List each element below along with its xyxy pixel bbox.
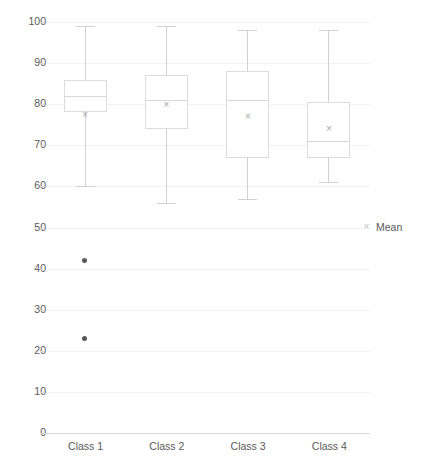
legend-label-mean: Mean — [376, 221, 402, 233]
box-plot-series[interactable]: × — [208, 0, 288, 471]
y-axis-tick-mark — [41, 104, 45, 105]
box-plot-series[interactable]: × — [127, 0, 207, 471]
lower-whisker — [166, 129, 167, 203]
legend: × Mean — [362, 221, 402, 233]
lower-whisker-cap — [238, 199, 257, 200]
upper-whisker — [247, 30, 248, 71]
outlier-point[interactable] — [82, 258, 87, 263]
outlier-point[interactable] — [82, 336, 87, 341]
mean-x-marker: × — [242, 111, 253, 122]
y-axis-tick-mark — [41, 310, 45, 311]
mean-x-marker: × — [323, 123, 334, 134]
upper-whisker — [166, 26, 167, 75]
box-plot-chart: 1009080706050403020100 Class 1Class 2Cla… — [0, 0, 423, 471]
upper-whisker — [328, 30, 329, 102]
upper-whisker-cap — [76, 26, 95, 27]
lower-whisker — [247, 158, 248, 199]
upper-whisker-cap — [319, 30, 338, 31]
median-line — [307, 141, 350, 142]
y-axis-tick-mark — [41, 269, 45, 270]
median-line — [64, 96, 107, 97]
upper-whisker — [85, 26, 86, 79]
lower-whisker — [85, 112, 86, 186]
lower-whisker — [328, 158, 329, 183]
y-axis-tick-mark — [41, 145, 45, 146]
mean-x-marker: × — [80, 109, 91, 120]
upper-whisker-cap — [238, 30, 257, 31]
median-line — [226, 100, 269, 101]
y-axis-tick-mark — [41, 63, 45, 64]
y-axis-tick-mark — [41, 186, 45, 187]
lower-whisker-cap — [157, 203, 176, 204]
y-axis-tick-mark — [41, 392, 45, 393]
lower-whisker-cap — [319, 182, 338, 183]
upper-whisker-cap — [157, 26, 176, 27]
lower-whisker-cap — [76, 186, 95, 187]
box-plot-series[interactable]: × — [46, 0, 126, 471]
box-plot-series[interactable]: × — [289, 0, 369, 471]
y-axis-tick-mark — [41, 351, 45, 352]
y-axis-tick-mark — [41, 22, 45, 23]
y-axis-tick-mark — [41, 228, 45, 229]
mean-x-marker: × — [161, 99, 172, 110]
mean-x-marker-icon: × — [362, 222, 371, 232]
